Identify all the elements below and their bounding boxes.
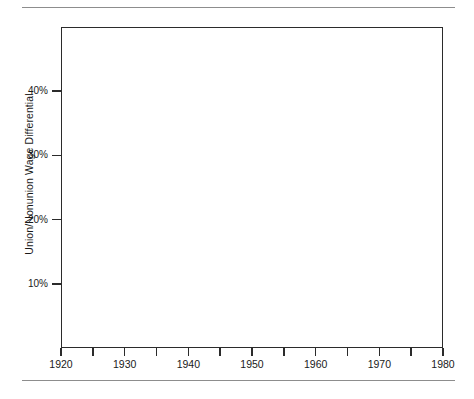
x-tick-mark (188, 348, 190, 356)
y-tick-label: 40% (8, 86, 48, 96)
x-tick-mark (410, 348, 412, 356)
x-tick-mark (379, 348, 381, 356)
y-tick-mark (52, 155, 61, 157)
x-tick-mark (92, 348, 94, 356)
x-tick-label: 1920 (31, 358, 91, 370)
x-tick-label: 1970 (349, 358, 409, 370)
x-tick-mark (219, 348, 221, 356)
y-tick-mark (52, 283, 61, 285)
x-tick-mark (156, 348, 158, 356)
x-tick-label: 1940 (158, 358, 218, 370)
x-tick-mark (251, 348, 253, 356)
x-tick-mark (283, 348, 285, 356)
x-tick-mark (124, 348, 126, 356)
x-tick-mark (60, 348, 62, 356)
y-tick-mark (52, 219, 61, 221)
x-tick-label: 1950 (222, 358, 282, 370)
figure-page: Union/Nonunion Wage Differential 10%20%3… (0, 0, 474, 399)
plot-frame (61, 27, 443, 348)
x-tick-mark (315, 348, 317, 356)
bar-chart: Union/Nonunion Wage Differential 10%20%3… (0, 0, 474, 399)
x-tick-label: 1980 (413, 358, 473, 370)
x-tick-label: 1960 (286, 358, 346, 370)
y-tick-label: 10% (8, 279, 48, 289)
y-axis-title: Union/Nonunion Wage Differential (23, 64, 35, 284)
y-tick-label: 30% (8, 150, 48, 160)
x-tick-mark (347, 348, 349, 356)
y-tick-label: 20% (8, 215, 48, 225)
x-tick-label: 1930 (95, 358, 155, 370)
x-tick-mark (442, 348, 444, 356)
y-tick-mark (52, 90, 61, 92)
